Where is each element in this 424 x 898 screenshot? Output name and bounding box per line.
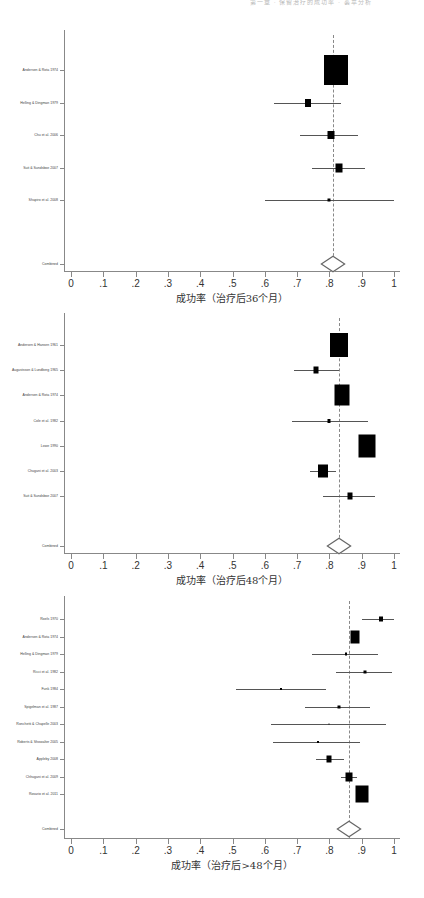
study-estimate-marker xyxy=(328,199,331,202)
x-tick-label: .8 xyxy=(325,560,333,571)
study-label: Shapiro et al. 2008 xyxy=(6,198,58,202)
y-tick xyxy=(60,395,64,396)
study-label: Andersen & Rota 1974 xyxy=(6,393,58,397)
y-tick xyxy=(60,70,64,71)
study-estimate-marker xyxy=(330,333,348,357)
x-axis-title: 成功率（治疗后36个月） xyxy=(176,290,289,305)
study-estimate-marker xyxy=(363,670,366,673)
pooled-estimate-line xyxy=(349,601,350,838)
study-label: Roberts & Showalter 2005 xyxy=(6,740,58,744)
x-tick xyxy=(233,272,234,277)
x-tick-label: .7 xyxy=(293,845,301,856)
y-tick xyxy=(60,759,64,760)
y-tick xyxy=(60,103,64,104)
x-tick-label: 0 xyxy=(68,560,74,571)
x-tick-label: 1 xyxy=(391,845,397,856)
y-axis xyxy=(64,30,65,271)
x-tick-label: .2 xyxy=(131,560,139,571)
x-axis-title: 成功率（治疗后>48个月） xyxy=(171,857,292,872)
y-tick xyxy=(60,724,64,725)
study-label: Roels 1970 xyxy=(6,617,58,621)
y-tick xyxy=(60,421,64,422)
x-tick xyxy=(168,839,169,844)
x-tick-label: .9 xyxy=(358,560,366,571)
study-label: Lowe 1990 xyxy=(6,444,58,448)
study-estimate-marker xyxy=(305,99,311,107)
study-label: Suit & Sundsboe 2007 xyxy=(6,494,58,498)
y-tick xyxy=(60,446,64,447)
x-tick-label: .3 xyxy=(164,278,172,289)
study-label: Andersen & Rota 1974 xyxy=(6,68,58,72)
x-tick-label: .6 xyxy=(261,278,269,289)
study-estimate-marker xyxy=(348,493,353,500)
x-tick-label: .8 xyxy=(325,278,333,289)
x-tick-label: .5 xyxy=(228,845,236,856)
study-estimate-marker xyxy=(328,419,331,423)
x-tick-label: .1 xyxy=(99,278,107,289)
x-tick xyxy=(71,839,72,844)
study-estimate-marker xyxy=(338,705,341,708)
study-label: Appleby 2008 xyxy=(6,757,58,761)
x-tick xyxy=(136,272,137,277)
x-tick xyxy=(136,554,137,559)
x-tick-label: .9 xyxy=(358,845,366,856)
y-tick xyxy=(60,672,64,673)
x-tick xyxy=(103,554,104,559)
x-tick-label: .4 xyxy=(196,560,204,571)
x-tick-label: 0 xyxy=(68,845,74,856)
y-tick xyxy=(60,370,64,371)
x-tick xyxy=(265,554,266,559)
combined-estimate-diamond xyxy=(326,538,351,555)
y-tick xyxy=(60,707,64,708)
y-tick xyxy=(60,264,64,265)
x-tick xyxy=(103,839,104,844)
y-tick xyxy=(60,777,64,778)
y-tick xyxy=(60,689,64,690)
x-tick-label: .1 xyxy=(99,560,107,571)
x-tick-label: .4 xyxy=(196,278,204,289)
page-header-text: 第一章 · 保留治疗的成功率 · 荟萃分析 xyxy=(250,0,420,6)
x-tick xyxy=(329,839,330,844)
x-tick-label: .9 xyxy=(358,278,366,289)
study-label: Augustsson & Lundberg 1965 xyxy=(6,368,58,372)
x-tick xyxy=(394,554,395,559)
x-tick xyxy=(71,554,72,559)
combined-label: Combined xyxy=(6,827,58,831)
x-tick xyxy=(200,554,201,559)
x-tick xyxy=(200,272,201,277)
y-tick xyxy=(60,496,64,497)
study-label: Funk 1984 xyxy=(6,687,58,691)
study-estimate-marker xyxy=(327,756,332,763)
y-tick xyxy=(60,742,64,743)
study-estimate-marker xyxy=(317,741,319,743)
x-tick-label: .4 xyxy=(196,845,204,856)
x-tick xyxy=(265,839,266,844)
study-label: Chugani et al. 2003 xyxy=(6,469,58,473)
y-tick xyxy=(60,345,64,346)
y-axis xyxy=(64,313,65,553)
y-tick xyxy=(60,829,64,830)
x-tick-label: .3 xyxy=(164,560,172,571)
y-tick xyxy=(60,619,64,620)
study-estimate-marker xyxy=(351,630,360,643)
study-estimate-marker xyxy=(318,465,328,478)
study-label: Andersen & Rota 1974 xyxy=(6,635,58,639)
combined-estimate-diamond xyxy=(336,821,361,838)
study-label: Cole et al. 1982 xyxy=(6,419,58,423)
y-tick xyxy=(60,654,64,655)
y-tick xyxy=(60,200,64,201)
x-tick-label: .8 xyxy=(325,845,333,856)
combined-label: Combined xyxy=(6,262,58,266)
x-axis-title: 成功率（治疗后48个月） xyxy=(176,572,289,587)
x-tick-label: .5 xyxy=(228,278,236,289)
y-tick xyxy=(60,794,64,795)
x-tick-label: 1 xyxy=(391,560,397,571)
study-estimate-marker xyxy=(280,688,282,690)
x-tick-label: 1 xyxy=(391,278,397,289)
study-estimate-marker xyxy=(335,385,350,406)
y-tick xyxy=(60,168,64,169)
x-tick xyxy=(362,839,363,844)
x-tick-label: .7 xyxy=(293,560,301,571)
study-estimate-marker xyxy=(345,772,352,781)
x-tick xyxy=(362,554,363,559)
